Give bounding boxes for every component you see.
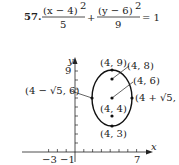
- point-focus-bottom: [110, 114, 113, 117]
- point-center: [110, 96, 113, 99]
- label-covertex-left: (4 − √5, 6): [25, 85, 79, 96]
- denominator-1: 5: [60, 19, 66, 30]
- point-focus-top: [110, 77, 113, 80]
- label-covertex-right: (4 + √5, 6): [135, 92, 179, 103]
- problem-number: 57.: [24, 11, 41, 22]
- exponent-2: 2: [135, 0, 141, 11]
- label-vertex-top: (4, 9): [100, 57, 127, 68]
- denominator-2: 9: [115, 19, 121, 30]
- y-tick-label-9: 9: [65, 65, 71, 76]
- x-ticks: [49, 149, 137, 152]
- x-tick-label-neg1: −1: [60, 154, 75, 165]
- ellipse-figure: 57. (x − 4) 2 5 + (y − 6) 2 9 = 1 x y −3: [0, 0, 179, 165]
- x-axis-label: x: [151, 141, 157, 152]
- label-vertex-bottom: (4, 3): [100, 128, 127, 139]
- leader-lines: [71, 66, 133, 98]
- x-tick-label-7: 7: [134, 154, 140, 165]
- point-covertex-right: [130, 96, 133, 99]
- y-ticks: [75, 71, 78, 143]
- point-vertex-top: [110, 68, 113, 71]
- ellipse-points: [90, 68, 133, 127]
- label-focus-top: (4, 8): [127, 60, 154, 71]
- numerator-1: (x − 4): [43, 5, 78, 16]
- numerator-2: (y − 6): [98, 5, 133, 16]
- equals-one: = 1: [142, 12, 160, 23]
- label-center: (4, 6): [133, 75, 160, 86]
- point-covertex-left: [90, 96, 93, 99]
- x-tick-label-neg3: −3: [42, 154, 57, 165]
- figure-canvas: 57. (x − 4) 2 5 + (y − 6) 2 9 = 1 x y −3: [0, 0, 179, 165]
- label-focus-bottom: (4, 4): [100, 103, 127, 114]
- exponent-1: 2: [80, 0, 86, 11]
- plus-sign: +: [87, 12, 95, 23]
